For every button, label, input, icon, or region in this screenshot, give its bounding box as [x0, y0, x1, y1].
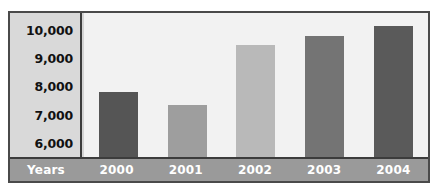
x-axis-title: Years	[10, 163, 82, 177]
x-tick-labels: 20002001200220032004	[82, 159, 428, 181]
x-tick-label: 2002	[220, 163, 289, 177]
x-tick-label: 2000	[82, 163, 151, 177]
bar	[236, 45, 275, 157]
bar-slot	[290, 13, 359, 157]
bar-chart-figure: 10,0009,0008,0007,0006,000 Years 2000200…	[8, 11, 430, 183]
bar-slot	[153, 13, 222, 157]
x-axis: Years 20002001200220032004	[10, 157, 428, 181]
y-tick-label: 10,000	[26, 22, 73, 37]
chart-inner: 10,0009,0008,0007,0006,000 Years 2000200…	[10, 13, 428, 181]
y-axis: 10,0009,0008,0007,0006,000	[10, 13, 82, 157]
y-tick-label: 8,000	[34, 79, 73, 94]
y-tick-label: 7,000	[34, 107, 73, 122]
y-tick-label: 9,000	[34, 51, 73, 66]
y-tick-label: 6,000	[34, 135, 73, 150]
bar	[99, 92, 138, 157]
x-tick-label: 2004	[359, 163, 428, 177]
bar	[168, 105, 207, 157]
bar	[374, 26, 413, 157]
bar-slot	[84, 13, 153, 157]
x-tick-label: 2001	[151, 163, 220, 177]
x-tick-label: 2003	[290, 163, 359, 177]
bar	[305, 36, 344, 157]
plot-area	[84, 13, 428, 157]
bar-slot	[222, 13, 291, 157]
bar-slot	[359, 13, 428, 157]
bar-series	[84, 13, 428, 157]
